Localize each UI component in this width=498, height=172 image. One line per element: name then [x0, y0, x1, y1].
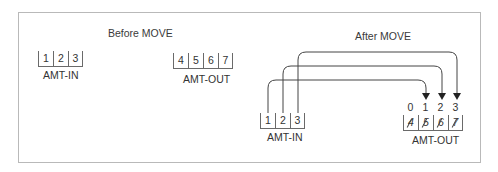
index-0: 0 [403, 101, 418, 113]
after-amt-in-cell-2: 2 [275, 113, 290, 128]
after-amt-out-indices: 0 1 2 3 [403, 101, 463, 113]
after-amt-in-cell-3: 3 [290, 113, 305, 128]
after-amt-in-label: AMT-IN [267, 131, 303, 143]
index-2: 2 [433, 101, 448, 113]
after-amt-out-cell-3-struck: 6 [433, 115, 448, 130]
after-amt-out-cell-1-struck: 4 [403, 115, 418, 130]
move-arrows [0, 0, 498, 172]
index-3: 3 [448, 101, 463, 113]
arrowhead-1-icon [422, 93, 430, 100]
after-amt-out-cell-2-struck: 5 [418, 115, 433, 130]
arrowhead-3-icon [453, 93, 461, 100]
after-amt-out-field: 4 5 6 7 [403, 115, 463, 131]
arrowhead-2-icon [438, 93, 446, 100]
after-amt-out-cell-4-struck: 7 [448, 115, 463, 130]
after-amt-in-cell-1: 1 [260, 113, 275, 128]
index-1: 1 [418, 101, 433, 113]
after-amt-in-field: 1 2 3 [260, 113, 305, 129]
after-amt-out-label: AMT-OUT [412, 134, 459, 146]
